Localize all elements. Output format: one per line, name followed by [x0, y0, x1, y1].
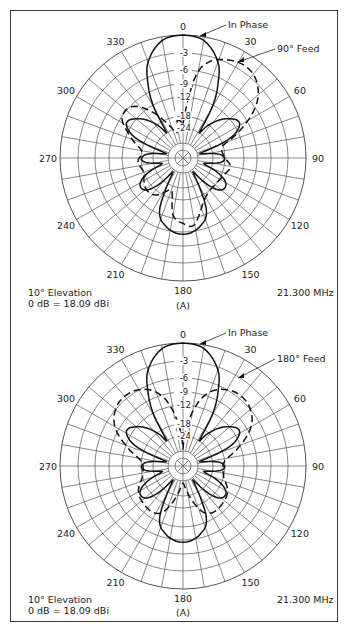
angle-tick-label: 270: [39, 153, 57, 164]
reference-label: 0 dB = 18.09 dBi: [28, 605, 109, 616]
elevation-label: 10° Elevation: [28, 287, 92, 298]
frequency-label: 21.300 MHz: [277, 287, 334, 298]
angle-tick-label: 60: [294, 85, 306, 96]
radial-tick-label: -3: [180, 356, 188, 366]
radial-tick-label: -18: [177, 419, 191, 429]
angle-tick-label: 180: [174, 285, 192, 296]
radial-tick-label: -9: [180, 387, 188, 397]
radial-tick-label: -6: [180, 65, 188, 75]
angle-tick-label: 120: [291, 528, 309, 539]
angle-tick-label: 30: [244, 344, 256, 355]
radial-tick-label: -12: [177, 92, 191, 102]
angle-tick-label: 330: [106, 344, 124, 355]
angle-tick-label: 240: [57, 528, 75, 539]
angle-tick-label: 0: [180, 329, 186, 340]
angle-tick-label: 270: [39, 461, 57, 472]
panel-label: (A): [176, 300, 190, 311]
panel-label: (A): [176, 607, 190, 618]
angle-tick-label: 90: [312, 153, 324, 164]
angle-tick-label: 150: [241, 577, 259, 588]
frequency-label: 21.300 MHz: [277, 594, 334, 605]
legend-180-feed: 180° Feed: [277, 353, 326, 364]
radial-tick-label: -18: [177, 111, 191, 121]
angle-tick-label: 150: [241, 269, 259, 280]
legend-in-phase: In Phase: [228, 19, 268, 30]
radial-tick-label: -24: [177, 431, 191, 441]
angle-tick-label: 210: [106, 269, 124, 280]
angle-tick-label: 210: [106, 577, 124, 588]
reference-label: 0 dB = 18.09 dBi: [28, 298, 109, 309]
radial-tick-label: -3: [180, 48, 188, 58]
legend-in-phase: In Phase: [228, 327, 268, 338]
pattern-curves: [114, 333, 275, 542]
angle-tick-label: 330: [106, 36, 124, 47]
angle-tick-label: 240: [57, 220, 75, 231]
polar-chart-top: 0306090120150180210240270300330-3-6-9-12…: [28, 19, 334, 311]
radial-tick-label: -12: [177, 400, 191, 410]
radial-tick-label: -24: [177, 123, 191, 133]
angle-tick-label: 300: [57, 393, 75, 404]
angle-tick-label: 30: [244, 36, 256, 47]
angle-tick-label: 180: [174, 593, 192, 604]
angle-tick-label: 90: [312, 461, 324, 472]
polar-charts: 0306090120150180210240270300330-3-6-9-12…: [0, 0, 347, 626]
polar-chart-bottom: 0306090120150180210240270300330-3-6-9-12…: [28, 327, 334, 618]
elevation-label: 10° Elevation: [28, 594, 92, 605]
radial-tick-label: -6: [180, 373, 188, 383]
angle-tick-label: 120: [291, 220, 309, 231]
legend-90-feed: 90° Feed: [277, 43, 320, 54]
angle-tick-label: 0: [180, 21, 186, 32]
angle-tick-label: 300: [57, 85, 75, 96]
radial-tick-label: -9: [180, 79, 188, 89]
angle-tick-label: 60: [294, 393, 306, 404]
